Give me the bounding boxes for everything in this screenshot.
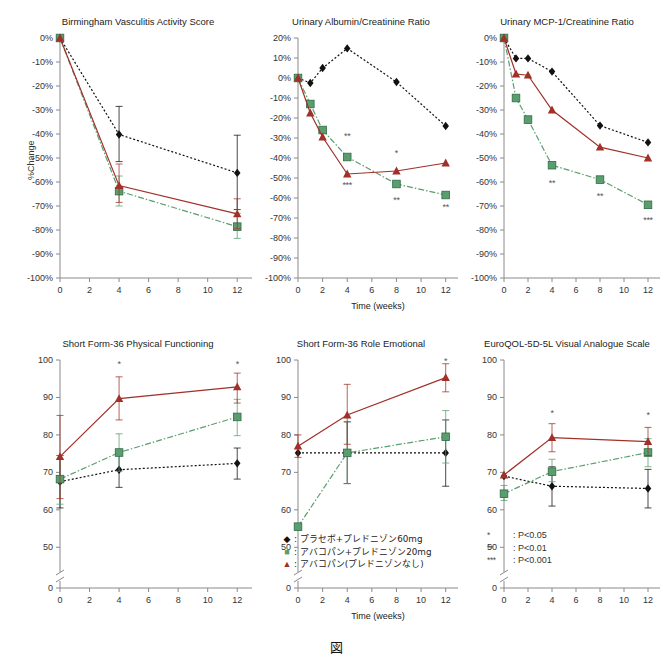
x-tick-label: 4	[549, 285, 554, 295]
x-tick-label: 12	[643, 285, 653, 295]
series-line	[298, 437, 446, 527]
y-tick-label: -100%	[471, 273, 497, 283]
data-point-marker	[512, 70, 520, 78]
panel-eq5d: EuroQOL-5D-5L Visual Analogue Scale10090…	[462, 338, 672, 628]
x-tick-label: 2	[525, 285, 530, 295]
data-point-marker	[549, 482, 556, 490]
y-tick-label: 90	[487, 392, 497, 402]
y-tick-label: 0%	[40, 33, 53, 43]
plot-sf36pf: 10090807060500024681012**	[14, 338, 262, 628]
sig-legend-item: **: P<0.01	[487, 542, 552, 555]
data-point-marker	[234, 169, 241, 177]
sig-stars: *	[487, 529, 513, 542]
data-point-marker	[645, 138, 652, 146]
y-tick-label: 60	[43, 505, 53, 515]
x-tick-label: 0	[295, 595, 300, 605]
data-point-marker	[233, 413, 241, 421]
y-tick-label: -30%	[476, 105, 497, 115]
legend-label: : アバコパン+プレドニゾン20mg	[294, 546, 431, 559]
x-tick-label: 10	[203, 285, 213, 295]
y-tick-label: 100	[38, 355, 53, 365]
x-tick-label: 2	[320, 595, 325, 605]
x-tick-label: 8	[597, 285, 602, 295]
data-point-marker	[644, 201, 652, 209]
y-tick-label: -90%	[270, 253, 291, 263]
y-tick-label: -30%	[32, 105, 53, 115]
data-point-marker	[115, 449, 123, 457]
series-line	[60, 38, 237, 227]
x-tick-label: 8	[597, 595, 602, 605]
panel-uacr: Urinary Albumin/Creatinine Ratio20%10%0%…	[254, 16, 468, 316]
legend-label: : アバコパン(プレドニゾンなし)	[294, 558, 424, 571]
y-tick-label: -50%	[270, 173, 291, 183]
cut-off-header-text	[0, 0, 672, 9]
y-tick-label: -90%	[32, 249, 53, 259]
y-tick-label: -20%	[476, 81, 497, 91]
x-tick-label: 0	[501, 595, 506, 605]
y-tick-label: -50%	[476, 153, 497, 163]
y-tick-label: 100	[276, 355, 291, 365]
y-tick-label: -80%	[270, 233, 291, 243]
x-tick-label: 0	[501, 285, 506, 295]
x-tick-label: 4	[549, 595, 554, 605]
y-tick-label: -10%	[270, 93, 291, 103]
panel-title: Short Form-36 Role Emotional	[254, 338, 468, 349]
sig-legend-item: *: P<0.05	[487, 529, 552, 542]
y-tick-label: 70	[487, 467, 497, 477]
y-tick-label: 90	[43, 392, 53, 402]
series-line	[60, 387, 237, 457]
x-tick-label: 6	[146, 285, 151, 295]
x-tick-label: 10	[416, 595, 426, 605]
significance-marker: **	[549, 178, 556, 188]
data-point-marker	[234, 459, 241, 467]
sig-stars: ***	[487, 554, 513, 567]
y-tick-label: -70%	[476, 201, 497, 211]
data-point-marker	[596, 143, 604, 151]
y-tick-label: -60%	[476, 177, 497, 187]
y-tick-label: -70%	[270, 213, 291, 223]
data-point-marker	[500, 490, 508, 498]
series-line	[504, 38, 648, 142]
plot-eq5d: 10090807060500024681012**	[462, 338, 672, 628]
y-tick-label: 0	[492, 583, 497, 593]
significance-marker: ***	[643, 215, 653, 225]
x-tick-label: 2	[87, 595, 92, 605]
y-tick-label: 80	[43, 430, 53, 440]
data-point-marker	[393, 78, 400, 86]
data-point-marker	[442, 433, 450, 441]
data-point-marker	[393, 180, 401, 188]
y-tick-label: -70%	[32, 201, 53, 211]
significance-marker: *	[117, 359, 121, 369]
y-tick-label: 0%	[278, 73, 291, 83]
data-point-marker	[513, 54, 520, 62]
x-tick-label: 12	[643, 595, 653, 605]
data-point-marker	[343, 153, 351, 161]
x-tick-label: 6	[369, 595, 374, 605]
plot-umcp1: 0%-10%-20%-30%-40%-50%-60%-70%-80%-90%-1…	[462, 16, 672, 316]
y-tick-label: -40%	[476, 129, 497, 139]
x-tick-label: 6	[146, 595, 151, 605]
data-point-marker	[548, 161, 556, 169]
x-tick-label: 6	[573, 595, 578, 605]
x-tick-label: 4	[345, 285, 350, 295]
significance-marker: ***	[342, 180, 352, 190]
data-point-marker	[442, 122, 449, 130]
diamond-icon: ◆	[281, 533, 293, 546]
x-tick-label: 0	[295, 285, 300, 295]
legend-item: ■: アバコパン+プレドニゾン20mg	[281, 546, 431, 559]
data-point-marker	[549, 67, 556, 75]
x-tick-label: 8	[394, 595, 399, 605]
x-tick-label: 10	[416, 285, 426, 295]
y-tick-label: 60	[487, 505, 497, 515]
data-point-marker	[442, 191, 450, 199]
x-tick-label: 2	[320, 285, 325, 295]
significance-marker: **	[344, 131, 351, 141]
y-tick-label: -10%	[32, 57, 53, 67]
sig-threshold: : P<0.001	[513, 554, 552, 567]
x-tick-label: 8	[176, 595, 181, 605]
x-tick-label: 4	[345, 595, 350, 605]
data-point-marker	[343, 449, 351, 457]
sig-stars: **	[487, 542, 513, 555]
y-tick-label: -10%	[476, 57, 497, 67]
sig-threshold: : P<0.05	[513, 529, 547, 542]
